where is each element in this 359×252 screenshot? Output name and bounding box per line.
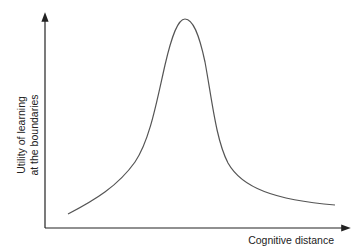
y-axis-label-line1: Utility of learning [15, 96, 27, 174]
chart-svg: Utility of learning at the boundaries Co… [0, 0, 359, 252]
x-axis-label: Cognitive distance [248, 234, 334, 246]
utility-curve [68, 19, 335, 214]
y-axis-label-line2: at the boundaries [28, 94, 40, 175]
chart-canvas: Utility of learning at the boundaries Co… [0, 0, 359, 252]
